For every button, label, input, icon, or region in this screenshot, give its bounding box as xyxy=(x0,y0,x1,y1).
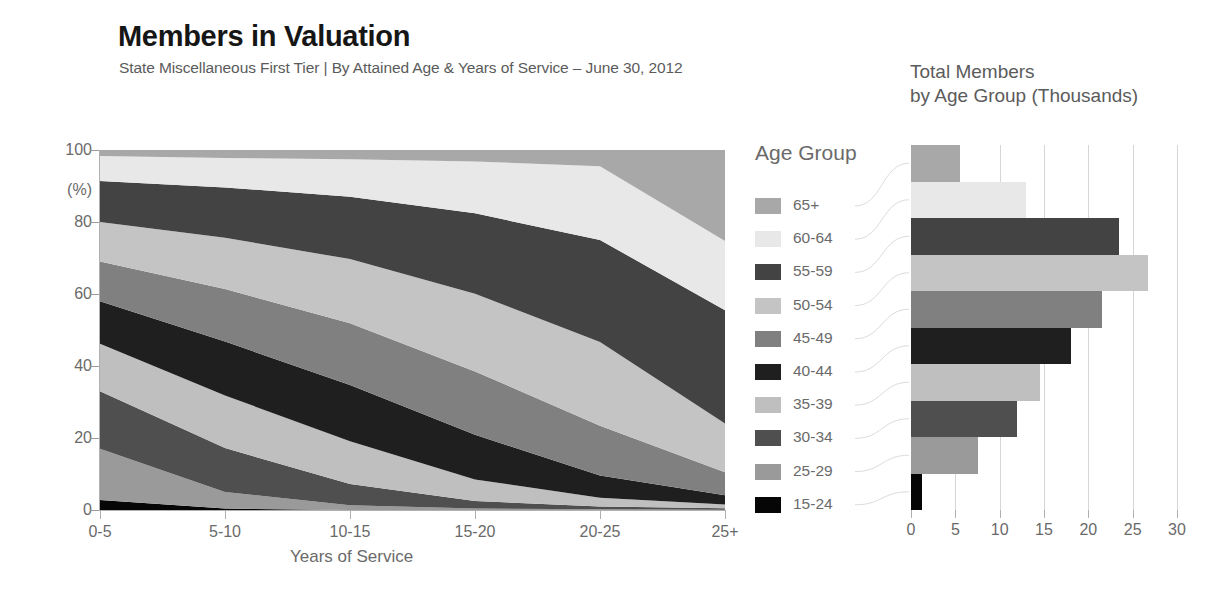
legend-item-label: 55-59 xyxy=(793,263,833,279)
bar-gridline xyxy=(1133,145,1134,510)
area-y-tick-label: 80 xyxy=(46,214,92,230)
bar-gridline xyxy=(1177,145,1178,510)
area-y-tick-mark xyxy=(90,438,99,439)
bar-x-tick-mark xyxy=(1000,510,1001,518)
area-x-tick-mark xyxy=(725,510,726,519)
area-x-tick-mark xyxy=(100,510,101,519)
bar-chart-title-line1: Total Members xyxy=(910,60,1035,84)
area-x-tick-label: 5-10 xyxy=(180,524,270,540)
legend-item-label: 35-39 xyxy=(793,396,833,412)
bar-x-tick-mark xyxy=(1177,510,1178,518)
area-chart: (%) 020406080100 0-55-1010-1515-2020-252… xyxy=(0,0,760,594)
legend-item-label: 60-64 xyxy=(793,230,833,246)
area-y-tick-mark xyxy=(90,222,99,223)
legend-leader-line xyxy=(855,236,909,272)
bar-40-44[interactable] xyxy=(911,328,1071,365)
legend-swatch-icon xyxy=(755,298,781,314)
area-x-tick-mark xyxy=(225,510,226,519)
area-y-tick-mark xyxy=(90,150,99,151)
legend-swatch-icon xyxy=(755,364,781,380)
legend-item-label: 15-24 xyxy=(793,496,833,512)
area-y-tick-label: 40 xyxy=(46,358,92,374)
bar-gridline xyxy=(1088,145,1089,510)
legend-item-label: 40-44 xyxy=(793,363,833,379)
bar-50-54[interactable] xyxy=(911,255,1148,292)
bar-chart-title-line2: by Age Group (Thousands) xyxy=(910,84,1138,108)
legend-swatch-icon xyxy=(755,397,781,413)
legend-leader-line xyxy=(855,382,909,405)
bar-x-tick-mark xyxy=(1133,510,1134,518)
bar-25-29[interactable] xyxy=(911,437,978,474)
legend-leader-line xyxy=(855,200,909,239)
legend-leader-line xyxy=(855,492,909,505)
legend-swatch-icon xyxy=(755,497,781,513)
area-x-tick-mark xyxy=(600,510,601,519)
bar-60-64[interactable] xyxy=(911,182,1026,219)
legend-leader-line xyxy=(855,346,909,372)
area-y-tick-label: 20 xyxy=(46,430,92,446)
bar-x-tick-mark xyxy=(1044,510,1045,518)
legend-leader-line xyxy=(855,455,909,471)
area-chart-plot xyxy=(0,0,760,594)
legend-item-label: 65+ xyxy=(793,197,819,213)
legend-item-label: 45-49 xyxy=(793,330,833,346)
bar-x-tick-mark xyxy=(955,510,956,518)
area-y-axis-line xyxy=(99,150,100,510)
area-x-tick-label: 0-5 xyxy=(55,524,145,540)
bar-35-39[interactable] xyxy=(911,364,1040,401)
legend-leader-line xyxy=(855,309,909,339)
area-x-tick-mark xyxy=(475,510,476,519)
legend-title: Age Group xyxy=(755,142,857,163)
legend-swatch-icon xyxy=(755,331,781,347)
bar-55-59[interactable] xyxy=(911,218,1119,255)
area-x-axis-title: Years of Service xyxy=(290,548,413,565)
legend-swatch-icon xyxy=(755,264,781,280)
area-x-tick-label: 20-25 xyxy=(555,524,645,540)
legend-leader-line xyxy=(855,273,909,306)
area-x-tick-label: 15-20 xyxy=(430,524,520,540)
legend-leader-line xyxy=(855,419,909,439)
bar-45-49[interactable] xyxy=(911,291,1102,328)
legend-leader-line xyxy=(855,163,909,206)
area-x-tick-label: 10-15 xyxy=(305,524,395,540)
area-y-tick-label: 100 xyxy=(46,142,92,158)
area-y-tick-label: 60 xyxy=(46,286,92,302)
legend-swatch-icon xyxy=(755,231,781,247)
legend-swatch-icon xyxy=(755,464,781,480)
bar-x-tick-mark xyxy=(911,510,912,518)
area-y-tick-mark xyxy=(90,294,99,295)
area-y-tick-mark xyxy=(90,366,99,367)
legend-item-label: 25-29 xyxy=(793,463,833,479)
bar-x-tick-mark xyxy=(1088,510,1089,518)
bar-65+[interactable] xyxy=(911,145,960,182)
bar-x-tick-label: 30 xyxy=(1147,522,1207,538)
area-x-axis-line xyxy=(99,510,725,511)
area-x-tick-mark xyxy=(350,510,351,519)
legend-swatch-icon xyxy=(755,198,781,214)
legend-item-label: 50-54 xyxy=(793,297,833,313)
legend-item-label: 30-34 xyxy=(793,429,833,445)
bar-30-34[interactable] xyxy=(911,401,1017,438)
area-x-tick-label: 25+ xyxy=(680,524,770,540)
legend-swatch-icon xyxy=(755,430,781,446)
area-y-tick-label: 0 xyxy=(46,502,92,518)
bar-15-24[interactable] xyxy=(911,474,922,511)
area-y-tick-mark xyxy=(90,510,99,511)
area-y-axis-unit: (%) xyxy=(46,182,92,198)
